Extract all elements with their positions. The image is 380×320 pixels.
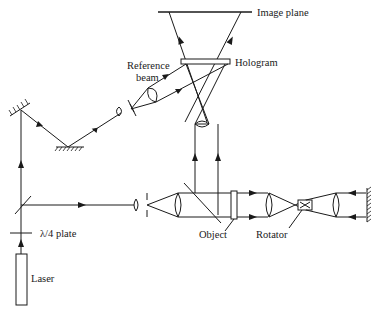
end-path bbox=[306, 190, 366, 220]
end-mirror bbox=[367, 187, 371, 222]
imaging-crossing-rays bbox=[186, 64, 225, 124]
hologram-label: Hologram bbox=[235, 57, 278, 68]
object-label: Object bbox=[199, 229, 227, 240]
reference-beam-label-line1: Reference bbox=[127, 60, 170, 71]
lambda-plate-label: λ/4 plate bbox=[40, 228, 77, 239]
object-beam-path bbox=[21, 193, 231, 217]
optical-diagram: Image plane Hologram bbox=[0, 0, 380, 320]
object bbox=[225, 191, 237, 231]
image-rays bbox=[169, 12, 241, 122]
relay-path bbox=[237, 190, 306, 220]
rotator-label: Rotator bbox=[256, 229, 288, 240]
top-left-mirror bbox=[9, 99, 30, 116]
laser bbox=[16, 254, 27, 305]
image-plane-label: Image plane bbox=[257, 7, 309, 18]
bottom-mirror bbox=[55, 147, 84, 151]
laser-label: Laser bbox=[31, 273, 55, 284]
reference-beam-path bbox=[21, 64, 228, 147]
hologram bbox=[181, 59, 230, 64]
object-vertical-rays bbox=[192, 124, 221, 215]
reference-beam-label-line2: beam bbox=[136, 72, 159, 83]
